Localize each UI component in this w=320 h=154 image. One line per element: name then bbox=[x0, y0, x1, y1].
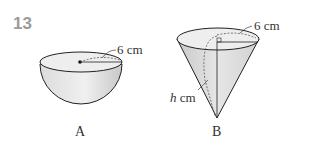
hemisphere-radius-label: 6 cm bbox=[117, 42, 143, 58]
cone-radius-label: 6 cm bbox=[254, 18, 280, 34]
cone-slant-label: h cm bbox=[170, 90, 196, 106]
cone-label: B bbox=[212, 124, 221, 140]
hemisphere-label: A bbox=[75, 124, 85, 140]
slant-unit: cm bbox=[177, 90, 196, 105]
hemisphere-figure bbox=[40, 50, 122, 104]
